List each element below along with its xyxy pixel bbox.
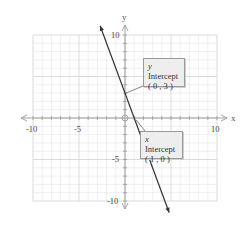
x-intercept-var: x [145, 134, 149, 144]
y-intercept-callout: y Intercept ( 0 , 3 ) [143, 58, 185, 87]
axes [21, 25, 227, 209]
x-tick-label-neg5: -5 [74, 124, 81, 134]
y-intercept-var: y [148, 61, 152, 71]
x-axis-label: x [231, 113, 236, 123]
y-tick-label-neg10: -10 [107, 196, 118, 206]
y-tick-label-neg5: -5 [112, 154, 119, 164]
y-axis-label: y [122, 12, 127, 22]
x-intercept-title: Intercept [145, 144, 175, 154]
x-tick-label-neg10: -10 [26, 124, 37, 134]
coordinate-plane: x y [0, 0, 249, 225]
y-intercept-coords: ( 0 , 3 ) [148, 81, 180, 91]
x-tick-label-pos10: 10 [211, 124, 220, 134]
y-tick-label-pos10: 10 [111, 30, 120, 40]
x-intercept-coords: ( 1 , 0 ) [145, 154, 178, 164]
x-intercept-callout: x Intercept ( 1 , 0 ) [140, 131, 183, 159]
y-intercept-title: Intercept [148, 71, 178, 81]
callout-leaders [126, 86, 145, 131]
